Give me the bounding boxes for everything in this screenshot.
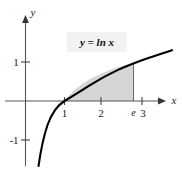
y-axis-arrowhead [22, 15, 29, 23]
x-axis-arrowhead [158, 98, 166, 105]
figure-container: y x 1 -1 1 2 e 3 y = ln x [0, 0, 182, 171]
curve-label-text: y = ln x [78, 36, 115, 48]
x-tick-label-1: 1 [62, 107, 68, 119]
x-tick-label-3: 3 [140, 107, 146, 119]
y-tick-label-neg1: -1 [9, 134, 18, 146]
x-axis-label: x [171, 94, 177, 106]
ln-curve [39, 50, 173, 166]
y-axis-label: y [30, 6, 36, 18]
x-tick-label-2: 2 [98, 107, 104, 119]
y-tick-label-1: 1 [13, 56, 19, 68]
log-function-plot: y x 1 -1 1 2 e 3 y = ln x [0, 0, 182, 171]
x-tick-label-e: e [131, 107, 136, 118]
